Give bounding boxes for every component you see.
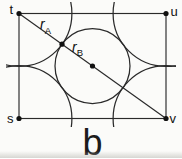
corner-dot-s [16,116,21,121]
contact-point-dot [59,42,64,47]
radius-a-label: rA [40,16,52,36]
radius-b-label: rB [72,39,83,59]
corner-label-v: v [170,111,177,126]
corner-dot-u [163,11,168,16]
corner-label-u: u [171,4,178,19]
radius-b-subscript: B [77,47,83,58]
unit-cell-diagram: t u s v rA rB b [0,0,182,158]
corner-dot-v [163,116,168,121]
corner-label-s: s [7,111,14,126]
corner-label-t: t [9,2,13,17]
figure-sublabel: b [82,122,102,159]
center-atom-dot [90,63,95,68]
figure-canvas: t u s v rA rB b [0,0,182,158]
corner-dot-t [16,11,21,16]
radius-a-subscript: A [45,25,52,36]
